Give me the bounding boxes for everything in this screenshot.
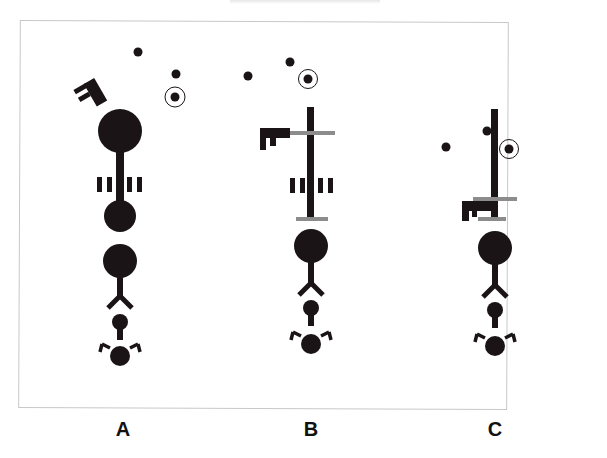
- panel-label-a: A: [108, 418, 138, 441]
- dot-icon: [244, 72, 253, 81]
- stripe: [97, 177, 102, 192]
- dot-icon: [442, 143, 451, 152]
- upper-gray-bar: [290, 131, 335, 135]
- target-dot-icon: [171, 93, 180, 102]
- stripe: [127, 177, 132, 192]
- lower-gray-bar: [296, 217, 328, 221]
- stripe: [107, 177, 112, 192]
- key-icon: [73, 78, 107, 113]
- panel-b: [244, 58, 336, 355]
- dot-icon: [483, 127, 492, 136]
- stem: [116, 150, 124, 205]
- target-dot-icon: [505, 145, 514, 154]
- ligand-ball: [294, 229, 328, 263]
- key-icon: [260, 128, 290, 150]
- vertical-bar: [307, 107, 314, 217]
- stripe: [300, 178, 305, 193]
- target-dot-icon: [304, 75, 313, 84]
- upper-gray-bar: [473, 197, 517, 201]
- medium-ball: [104, 200, 136, 232]
- panel-label-b: B: [296, 418, 326, 441]
- diagram-canvas: [0, 0, 607, 458]
- dot-icon: [134, 48, 143, 57]
- lower-gray-bar: [478, 217, 506, 221]
- stripe: [137, 177, 142, 192]
- stripe: [328, 178, 333, 193]
- bottom-ball: [110, 346, 130, 366]
- stripe: [318, 178, 323, 193]
- dot-icon: [286, 58, 295, 67]
- bottom-ball: [485, 336, 505, 356]
- large-ball: [98, 109, 142, 153]
- ligand-ball: [478, 231, 512, 265]
- panel-label-c: C: [480, 418, 510, 441]
- stripe: [290, 178, 295, 193]
- panel-c: [442, 109, 519, 356]
- bottom-ball: [301, 334, 321, 354]
- dot-icon: [172, 70, 181, 79]
- ligand-ball: [103, 244, 137, 278]
- panel-a: [73, 48, 185, 367]
